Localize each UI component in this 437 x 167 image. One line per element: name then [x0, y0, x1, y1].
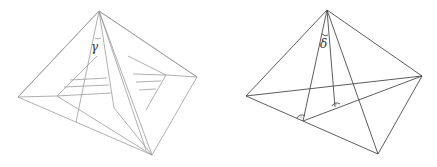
right-apex-to-foot-1	[303, 10, 327, 121]
left-hatch-3	[57, 93, 111, 96]
left-hatch-6	[139, 89, 156, 90]
left-strip-d	[114, 108, 152, 155]
left-pyramid-figure: γ	[18, 11, 197, 155]
left-angle-label-gamma: γ	[91, 40, 99, 54]
left-apex-height-line	[76, 11, 99, 122]
left-outer-base	[18, 11, 197, 155]
left-edge-apex-right	[99, 11, 197, 77]
right-pyramid-figure: δ	[246, 10, 422, 154]
left-connector-1	[18, 96, 57, 97]
left-inner-section-right	[128, 56, 166, 110]
left-hatch-2	[64, 85, 109, 87]
right-angle-dot-2	[335, 103, 336, 104]
geometry-diagram: γ δ	[0, 0, 437, 167]
right-angle-arc	[322, 34, 328, 36]
left-connector-3	[166, 75, 197, 77]
left-hatch-1	[70, 78, 107, 80]
left-strip-b	[99, 11, 152, 155]
right-apex-to-foot-2	[327, 10, 335, 107]
left-edge-apex-left	[18, 11, 99, 97]
left-hatch-5	[136, 81, 161, 82]
right-angle-dot-1	[300, 116, 301, 117]
left-strip-a	[99, 11, 146, 150]
right-outer-base	[246, 10, 422, 154]
left-hatch-4	[133, 74, 166, 75]
left-inner-section	[57, 56, 97, 96]
right-angle-label-delta: δ	[320, 37, 327, 51]
left-angle-arc	[95, 38, 101, 39]
